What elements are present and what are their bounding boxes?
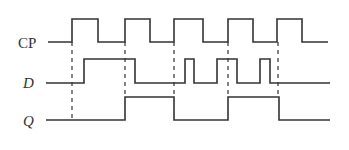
- waveforms: [46, 19, 330, 120]
- dashed-guides: [72, 42, 278, 120]
- waveform-d: [46, 59, 330, 83]
- waveform-q: [46, 97, 330, 120]
- waveform-canvas: [0, 0, 349, 150]
- waveform-cp: [48, 19, 328, 42]
- timing-diagram: CP D Q: [0, 0, 349, 150]
